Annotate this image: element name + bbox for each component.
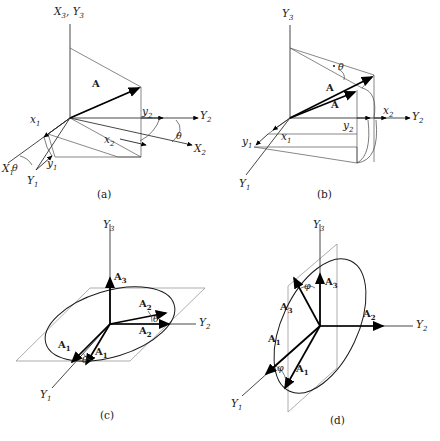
vector-a-line	[70, 88, 139, 118]
vector-label-a2-upper: A2	[139, 299, 152, 311]
angle-label-theta-right: θ	[153, 314, 159, 324]
panel-d-drawing	[220, 216, 440, 436]
vector-label-a-upper: A	[326, 83, 334, 93]
vector-label-a1-upper: A1	[268, 334, 281, 346]
angle-label-theta-left: θ	[82, 355, 88, 365]
axis-label-y1: Y1	[40, 389, 51, 403]
axis-label-y3: Y3	[103, 219, 114, 233]
vector-label-a1-left: A1	[58, 340, 71, 352]
panel-a-caption: (a)	[97, 188, 111, 200]
angle-label-phi-upper: φ	[304, 281, 311, 291]
component-label-x1: x1	[30, 114, 40, 128]
component-x1-arrow	[44, 118, 70, 137]
vector-label-a2-lower: A2	[139, 326, 152, 338]
axis-y1-line	[246, 118, 290, 175]
vector-label-a: A	[92, 79, 100, 89]
component-label-y2: y2	[343, 120, 353, 134]
component-label-y1: y1	[47, 158, 57, 172]
axis-label-x2: X2	[194, 143, 206, 157]
component-label-x2: x2	[383, 105, 393, 119]
vertical-plane	[288, 244, 337, 412]
vector-a1-lower-line	[285, 326, 320, 388]
axis-label-y2: Y2	[412, 111, 423, 125]
vector-label-a2: A2	[363, 309, 376, 321]
panel-b-caption: (b)	[317, 188, 332, 200]
panel-c-drawing	[0, 216, 220, 436]
angle-label-theta-left: θ	[12, 163, 18, 173]
axis-label-y3: Y3	[313, 219, 324, 233]
angle-theta-left-arc	[20, 156, 32, 165]
axis-label-y1: Y1	[239, 178, 250, 192]
axis-x2-line	[70, 118, 192, 145]
panel-d: Y3 Y2 Y1 A3 A3 A2 A1 A1 φ φ (d)	[220, 216, 440, 436]
panel-b: Y3 Y2 Y1 x1 y1 x2 y2 A A θ (b)	[220, 0, 440, 220]
vector-label-a-lower: A	[331, 100, 339, 110]
vector-label-a3-left: A3	[280, 302, 293, 314]
axis-label-y2: Y2	[416, 319, 427, 333]
component-label-x1: x1	[281, 131, 291, 145]
angle-label-theta-right: θ	[176, 131, 182, 141]
axis-label-y1: Y1	[27, 175, 38, 189]
axis-label-y1: Y1	[231, 398, 242, 412]
sweep-curve-inner	[357, 120, 369, 163]
axis-label-y2: Y2	[200, 110, 211, 124]
sweep-curve-left	[44, 137, 52, 156]
panel-d-caption: (d)	[330, 414, 345, 426]
figure-root: X3, Y3 Y2 X2 X1 Y1 x1 y1 x2 y2 A θ θ (a)	[0, 0, 440, 441]
component-label-y2: y2	[142, 106, 152, 120]
vector-label-a3: A3	[114, 272, 127, 284]
angle-label-theta: θ	[338, 62, 344, 72]
vector-label-a1-right: A1	[95, 347, 108, 359]
sweep-curve-top	[362, 88, 375, 118]
vector-label-a3-right: A3	[325, 277, 338, 289]
proj-edge-top	[70, 48, 141, 87]
axis-label-y2: Y2	[199, 317, 210, 331]
angle-label-phi-lower: φ	[277, 363, 284, 373]
vector-label-a1-lower: A1	[296, 364, 309, 376]
panel-c: Y3 Y2 Y1 A3 A2 A2 A1 A1 θ θ (c)	[0, 216, 220, 436]
component-label-x2: x2	[104, 134, 114, 148]
vector-a-lower-line	[290, 92, 355, 118]
axis-label-y3: Y3	[282, 8, 293, 22]
angle-theta-dot	[333, 65, 335, 67]
axis-label-x3y3: X3, Y3	[54, 6, 84, 20]
panel-a: X3, Y3 Y2 X2 X1 Y1 x1 y1 x2 y2 A θ θ (a)	[0, 0, 220, 220]
panel-c-caption: (c)	[100, 409, 114, 421]
panel-b-drawing	[220, 0, 440, 220]
component-y1-arrow	[256, 134, 268, 145]
component-x1-arrow	[273, 118, 290, 130]
base-edge-4	[254, 147, 357, 163]
component-label-y1: y1	[242, 136, 252, 150]
